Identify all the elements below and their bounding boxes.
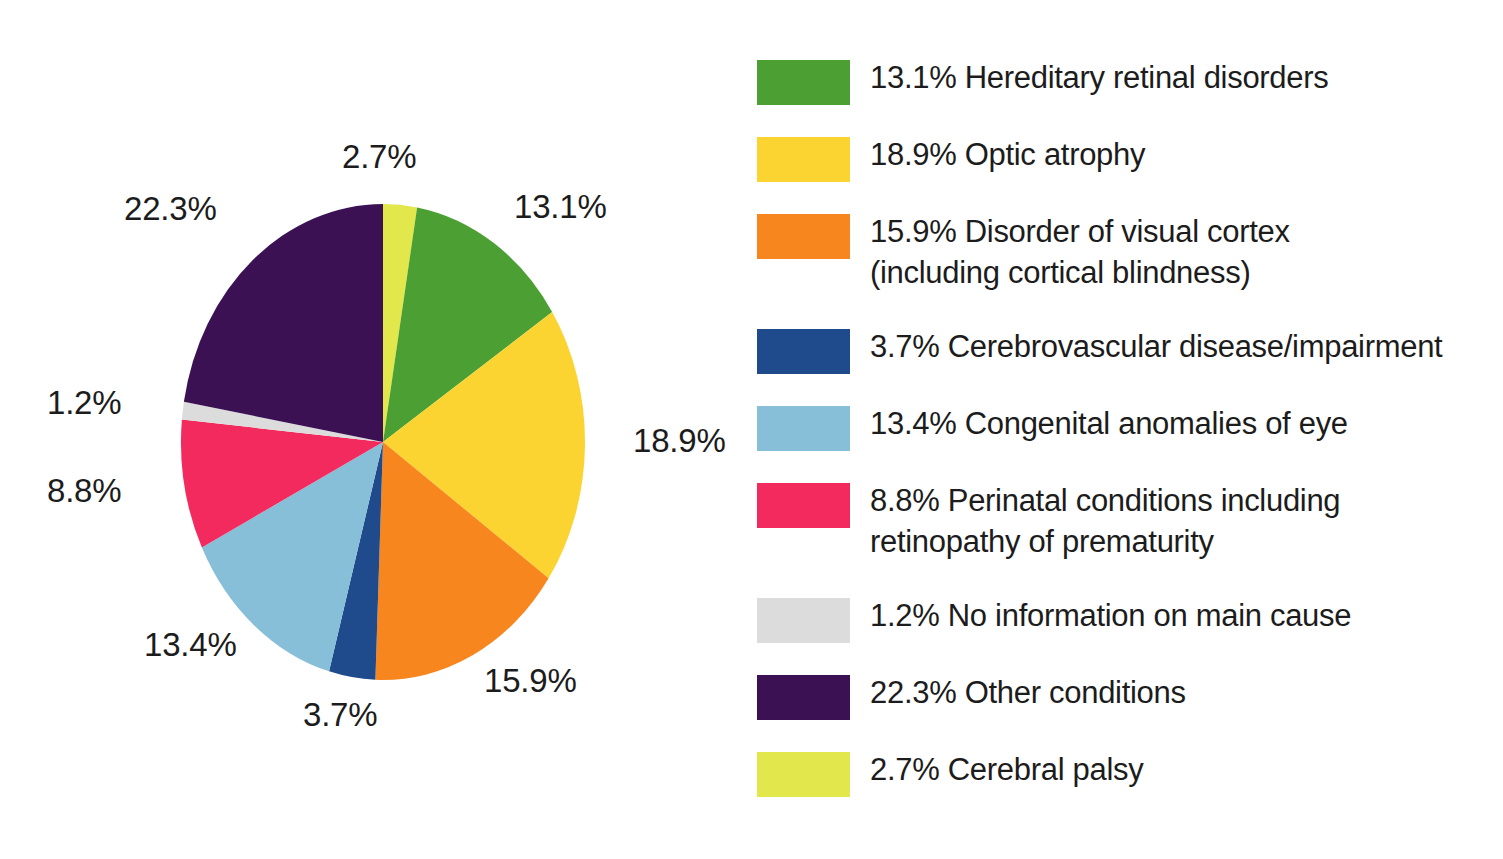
legend-item-label: 13.1% Hereditary retinal disorders [870, 57, 1328, 98]
legend-swatch-icon [757, 752, 850, 797]
legend-item-label: 15.9% Disorder of visual cortex (includi… [870, 211, 1290, 293]
pie-slice [184, 204, 383, 442]
legend-swatch-icon [757, 214, 850, 259]
legend-item-label: 1.2% No information on main cause [870, 595, 1351, 636]
legend-item-label: 3.7% Cerebrovascular disease/impairment [870, 326, 1442, 367]
legend-item-disorder-of-visual-cortex[interactable]: 15.9% Disorder of visual cortex (includi… [757, 211, 1290, 293]
legend: 13.1% Hereditary retinal disorders 18.9%… [755, 0, 1503, 859]
pie-label-disorder-of-visual-cortex: 15.9% [484, 662, 577, 700]
legend-swatch-icon [757, 483, 850, 528]
pie-label-cerebral-palsy: 2.7% [342, 138, 416, 176]
legend-swatch-icon [757, 329, 850, 374]
legend-item-cerebral-palsy[interactable]: 2.7% Cerebral palsy [757, 749, 1143, 797]
legend-item-cerebrovascular-disease[interactable]: 3.7% Cerebrovascular disease/impairment [757, 326, 1442, 374]
pie-label-congenital-anomalies-of-eye: 13.4% [144, 626, 237, 664]
pie-slice-group [181, 204, 585, 680]
legend-item-label: 18.9% Optic atrophy [870, 134, 1145, 175]
legend-item-label: 2.7% Cerebral palsy [870, 749, 1143, 790]
pie-label-optic-atrophy: 18.9% [633, 422, 726, 460]
pie-label-other-conditions: 22.3% [124, 190, 217, 228]
pie-label-perinatal-conditions: 8.8% [47, 472, 121, 510]
legend-swatch-icon [757, 406, 850, 451]
legend-swatch-icon [757, 598, 850, 643]
legend-item-hereditary-retinal-disorders[interactable]: 13.1% Hereditary retinal disorders [757, 57, 1328, 105]
legend-item-perinatal-conditions[interactable]: 8.8% Perinatal conditions including reti… [757, 480, 1340, 562]
legend-swatch-icon [757, 137, 850, 182]
pie-label-no-information: 1.2% [47, 384, 121, 422]
legend-item-optic-atrophy[interactable]: 18.9% Optic atrophy [757, 134, 1145, 182]
legend-item-label: 13.4% Congenital anomalies of eye [870, 403, 1348, 444]
legend-swatch-icon [757, 675, 850, 720]
pie-chart-panel: 2.7% 13.1% 18.9% 15.9% 3.7% 13.4% 8.8% 1… [0, 0, 745, 859]
legend-item-label: 8.8% Perinatal conditions including reti… [870, 480, 1340, 562]
legend-item-congenital-anomalies-of-eye[interactable]: 13.4% Congenital anomalies of eye [757, 403, 1348, 451]
legend-item-label: 22.3% Other conditions [870, 672, 1186, 713]
legend-item-other-conditions[interactable]: 22.3% Other conditions [757, 672, 1186, 720]
pie-label-hereditary-retinal-disorders: 13.1% [514, 188, 607, 226]
legend-item-no-information[interactable]: 1.2% No information on main cause [757, 595, 1351, 643]
legend-swatch-icon [757, 60, 850, 105]
pie-label-cerebrovascular-disease: 3.7% [303, 696, 377, 734]
